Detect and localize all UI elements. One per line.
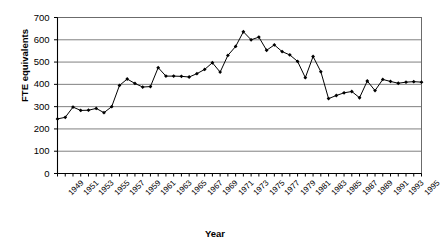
y-tick-label: 500 (20, 57, 50, 67)
data-point-marker (149, 85, 153, 89)
data-point-marker (187, 75, 191, 79)
data-point-marker (327, 97, 331, 101)
y-tick-label: 100 (20, 146, 50, 156)
data-point-marker (319, 70, 323, 74)
data-point-marker (172, 74, 176, 78)
data-point-marker (303, 76, 307, 80)
data-point-marker (420, 80, 424, 84)
data-point-marker (404, 80, 408, 84)
data-point-marker (195, 72, 199, 76)
y-tick-label: 200 (20, 124, 50, 134)
data-point-marker (334, 94, 338, 98)
y-tick-label: 0 (20, 169, 50, 179)
y-tick-label: 300 (20, 102, 50, 112)
y-tick-label: 600 (20, 35, 50, 45)
data-point-marker (87, 108, 91, 112)
data-point-marker (56, 117, 60, 121)
data-point-marker (180, 74, 184, 78)
data-point-marker (311, 55, 315, 59)
data-point-marker (141, 85, 145, 89)
y-tick-label: 400 (20, 79, 50, 89)
data-point-marker (389, 80, 393, 84)
data-point-marker (412, 80, 416, 84)
plot-border (58, 18, 422, 174)
data-point-marker (79, 109, 83, 113)
y-tick-label: 700 (20, 13, 50, 23)
data-point-marker (342, 91, 346, 95)
